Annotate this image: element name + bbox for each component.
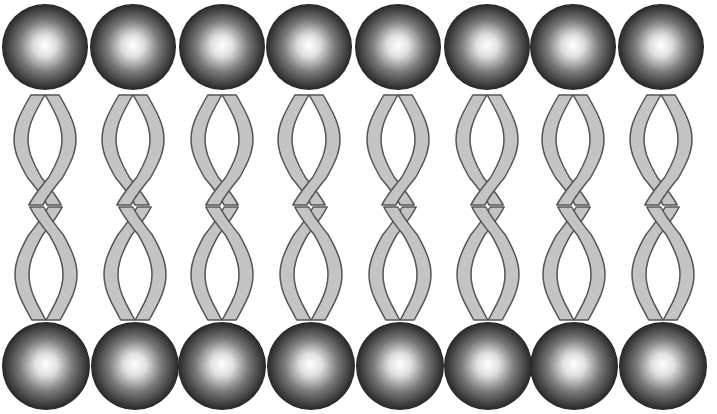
inner-leaflet bbox=[2, 207, 707, 410]
hydrophilic-head bbox=[2, 322, 90, 410]
phospholipid-molecule bbox=[179, 4, 265, 205]
outer-leaflet bbox=[2, 4, 704, 205]
hydrophilic-head bbox=[179, 4, 265, 90]
hydrophilic-head bbox=[530, 4, 616, 90]
hydrophilic-head bbox=[90, 4, 176, 90]
hydrophilic-head bbox=[618, 4, 704, 90]
phospholipid-molecule bbox=[444, 4, 530, 205]
phospholipid-molecule bbox=[355, 4, 441, 205]
hydrophilic-head bbox=[444, 4, 530, 90]
hydrophilic-head bbox=[619, 322, 707, 410]
hydrophilic-head bbox=[444, 322, 532, 410]
phospholipid-molecule bbox=[2, 4, 88, 205]
phospholipid-molecule bbox=[2, 207, 90, 410]
hydrophilic-head bbox=[2, 4, 88, 90]
phospholipid-molecule bbox=[619, 207, 707, 410]
phospholipid-molecule bbox=[91, 207, 179, 410]
phospholipid-molecule bbox=[90, 4, 176, 205]
phospholipid-molecule bbox=[530, 4, 616, 205]
phospholipid-molecule bbox=[618, 4, 704, 205]
hydrophilic-head bbox=[266, 4, 352, 90]
hydrophilic-head bbox=[355, 4, 441, 90]
phospholipid-bilayer-diagram bbox=[0, 0, 717, 414]
hydrophilic-head bbox=[178, 322, 266, 410]
phospholipid-molecule bbox=[178, 207, 266, 410]
phospholipid-molecule bbox=[356, 207, 444, 410]
phospholipid-molecule bbox=[267, 207, 355, 410]
hydrophilic-head bbox=[530, 322, 618, 410]
phospholipid-molecule bbox=[266, 4, 352, 205]
hydrophilic-head bbox=[356, 322, 444, 410]
phospholipid-molecule bbox=[530, 207, 618, 410]
hydrophilic-head bbox=[91, 322, 179, 410]
phospholipid-molecule bbox=[444, 207, 532, 410]
hydrophilic-head bbox=[267, 322, 355, 410]
